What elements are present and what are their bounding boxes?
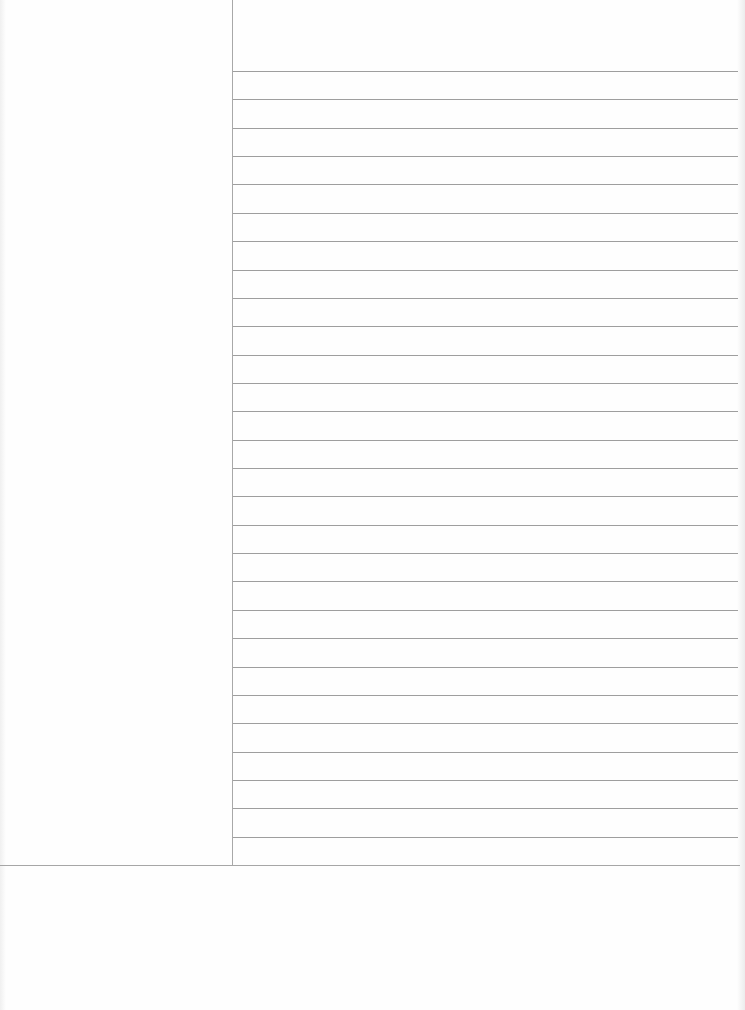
ruled-line: [233, 411, 738, 412]
ruled-line: [233, 695, 738, 696]
ruled-line: [233, 468, 738, 469]
ruled-line: [233, 525, 738, 526]
ruled-line: [233, 298, 738, 299]
ruled-line: [233, 184, 738, 185]
ruled-line: [233, 752, 738, 753]
ruled-line: [233, 156, 738, 157]
ruled-line: [233, 71, 738, 72]
ruled-line: [233, 99, 738, 100]
summary-area[interactable]: [0, 866, 740, 1010]
ruled-line: [233, 667, 738, 668]
notes-area[interactable]: [0, 0, 745, 865]
ruled-line: [233, 383, 738, 384]
ruled-line: [233, 270, 738, 271]
ruled-line: [233, 780, 738, 781]
ruled-line: [233, 213, 738, 214]
ruled-line: [233, 355, 738, 356]
ruled-line: [233, 837, 738, 838]
ruled-line: [233, 241, 738, 242]
ruled-line: [233, 808, 738, 809]
ruled-line: [233, 440, 738, 441]
notes-page: [0, 0, 745, 1010]
ruled-line: [233, 496, 738, 497]
ruled-line: [233, 553, 738, 554]
ruled-line: [233, 610, 738, 611]
ruled-line: [233, 326, 738, 327]
ruled-line: [233, 128, 738, 129]
ruled-line: [233, 638, 738, 639]
ruled-line: [233, 723, 738, 724]
ruled-line: [233, 581, 738, 582]
